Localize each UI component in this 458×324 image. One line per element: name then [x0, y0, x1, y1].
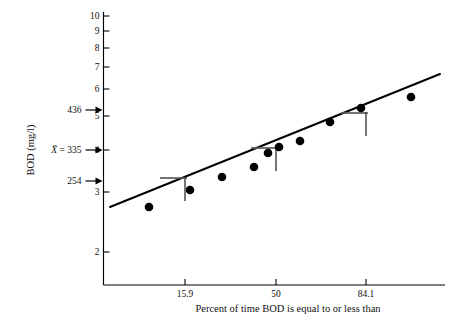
x-tick-label-84.1: 84.1 — [358, 289, 375, 299]
data-point-0 — [145, 203, 154, 212]
x-tick-label-15.9: 15.9 — [177, 289, 194, 299]
y-axis-title: BOD (mg/l) — [25, 124, 37, 176]
annotation-label-254: 254 — [67, 176, 82, 186]
data-point-3 — [250, 163, 259, 172]
data-point-7 — [326, 118, 335, 127]
x-tick-label-50: 50 — [271, 289, 281, 299]
chart-figure: 1098765432 15.95084.1 436X̄ = 335254 Per… — [0, 0, 458, 324]
data-point-2 — [218, 173, 227, 182]
y-tick-label-10: 10 — [90, 11, 100, 21]
log-probability-plot: 1098765432 15.95084.1 436X̄ = 335254 Per… — [0, 0, 458, 324]
y-tick-label-9: 9 — [95, 26, 100, 36]
data-point-1 — [186, 186, 195, 195]
y-tick-label-8: 8 — [95, 43, 100, 53]
plot-background — [0, 0, 458, 324]
annotation-label-436: 436 — [67, 105, 82, 115]
y-tick-label-7: 7 — [95, 62, 100, 72]
annotation-label-X335: X̄ = 335 — [50, 145, 81, 155]
y-tick-label-2: 2 — [95, 247, 100, 257]
data-point-6 — [296, 137, 305, 146]
data-point-9 — [407, 93, 416, 102]
x-axis-title: Percent of time BOD is equal to or less … — [195, 303, 381, 314]
data-point-8 — [357, 104, 366, 113]
data-point-4 — [264, 149, 273, 158]
y-tick-label-3: 3 — [95, 187, 100, 197]
y-tick-label-6: 6 — [95, 84, 100, 94]
data-point-5 — [275, 143, 284, 152]
